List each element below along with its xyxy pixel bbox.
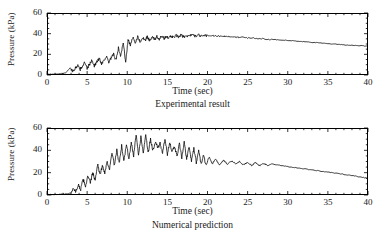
y-axis-label-top: Pressure (kPa): [4, 0, 18, 78]
plot-svg-numerical: [47, 128, 368, 195]
x-axis-label-top: Time (sec): [0, 86, 385, 96]
figure-container: Pressure (kPa) 0204060 0510152025303540 …: [0, 0, 385, 237]
y-tick-label: 40: [26, 145, 42, 154]
plot-svg-experimental: [47, 13, 368, 75]
data-series-line: [47, 34, 368, 75]
y-tick-label: 60: [26, 8, 42, 17]
x-axis-label-bottom: Time (sec): [0, 206, 385, 216]
y-axis-label-bottom: Pressure (kPa): [4, 115, 18, 193]
chart-panel-numerical: Pressure (kPa) 0204060 0510152025303540 …: [0, 113, 385, 237]
y-tick-label: 60: [26, 123, 42, 132]
caption-numerical: Numerical prediction: [0, 220, 385, 230]
chart-panel-experimental: Pressure (kPa) 0204060 0510152025303540 …: [0, 0, 385, 113]
plot-area-experimental: [47, 13, 368, 75]
y-tick-label: 40: [26, 29, 42, 38]
data-series-line: [47, 135, 368, 195]
caption-experimental: Experimental result: [0, 99, 385, 109]
plot-frame: [48, 14, 368, 75]
y-tick-label: 20: [26, 49, 42, 58]
plot-area-numerical: [47, 128, 368, 195]
y-tick-label: 20: [26, 168, 42, 177]
